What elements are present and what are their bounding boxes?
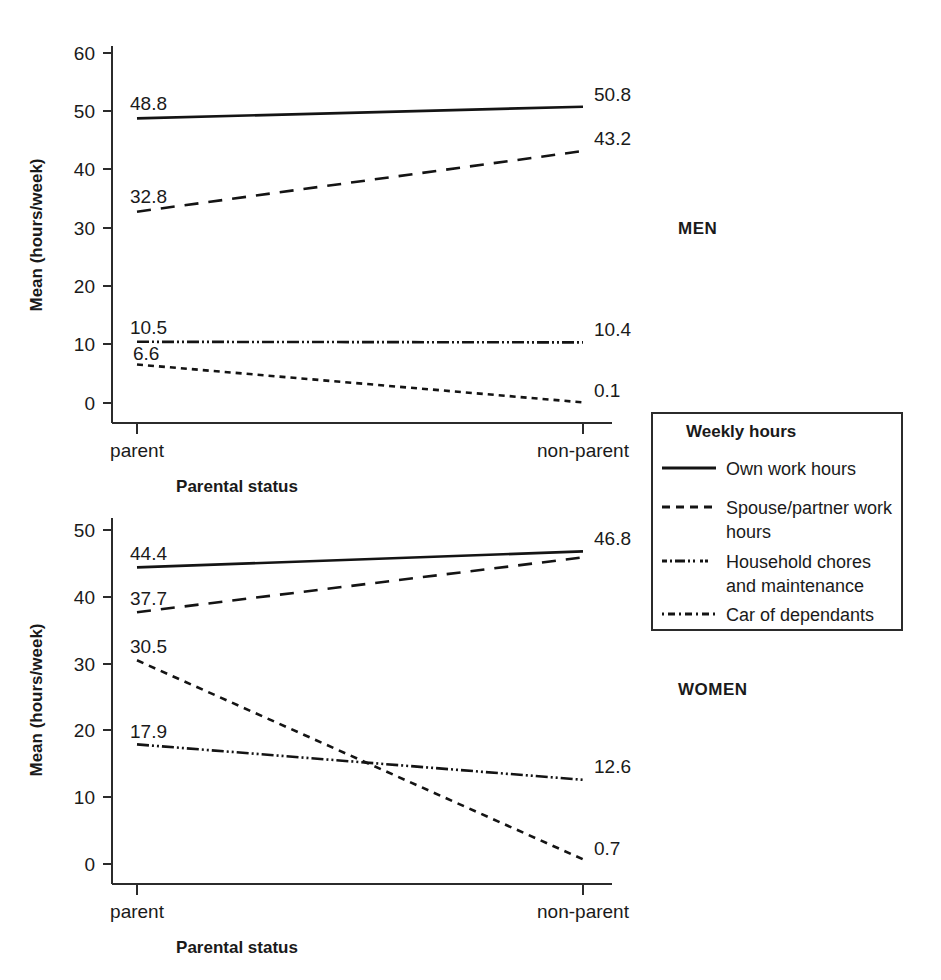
legend-label-own-work-hours: Own work hours — [726, 459, 856, 479]
men-series-spouse-work-hours — [137, 151, 583, 212]
legend-label-care-of-dependants: Car of dependants — [726, 605, 874, 625]
legend-item-household-chores[interactable]: Household chores and maintenance — [662, 552, 871, 596]
panel-label-women: WOMEN — [678, 680, 748, 699]
women-label-chores-left: 17.9 — [130, 721, 167, 742]
legend-label-spouse-work-hours: Spouse/partner work — [726, 498, 893, 518]
men-label-chores-right: 10.4 — [594, 319, 631, 340]
women-label-care-right: 0.7 — [594, 838, 620, 859]
legend-title: Weekly hours — [686, 422, 796, 441]
men-ytick-30: 30 — [74, 218, 95, 239]
women-label-spouse-left: 37.7 — [130, 588, 167, 609]
men-label-spouse-left: 32.8 — [130, 186, 167, 207]
women-label-own-right: 46.8 — [594, 528, 631, 549]
men-series-own-work-hours — [137, 107, 583, 119]
men-label-spouse-right: 43.2 — [594, 128, 631, 149]
men-ytick-0: 0 — [84, 393, 95, 414]
legend-label-household-chores-line2: and maintenance — [726, 576, 864, 596]
legend-label-household-chores: Household chores — [726, 552, 871, 572]
women-label-own-left: 44.4 — [130, 543, 167, 564]
men-x-axis-title: Parental status — [176, 477, 298, 496]
legend-border — [652, 413, 902, 630]
men-ytick-20: 20 — [74, 276, 95, 297]
men-label-care-left: 6.6 — [133, 343, 159, 364]
women-series-household-chores — [137, 744, 583, 779]
women-ytick-0: 0 — [84, 854, 95, 875]
men-xtick-non-parent: non-parent — [537, 440, 630, 461]
men-series-household-chores — [137, 342, 583, 343]
women-series-own-work-hours — [137, 551, 583, 567]
women-series-care-of-dependants — [137, 660, 583, 859]
men-xtick-parent: parent — [110, 440, 165, 461]
men-ytick-10: 10 — [74, 334, 95, 355]
women-label-care-left: 30.5 — [130, 636, 167, 657]
men-y-ticks — [103, 53, 112, 403]
women-ytick-40: 40 — [74, 587, 95, 608]
women-ytick-10: 10 — [74, 787, 95, 808]
women-x-ticks — [137, 884, 583, 895]
legend-item-care-of-dependants[interactable]: Car of dependants — [662, 605, 874, 625]
women-ytick-50: 50 — [74, 520, 95, 541]
men-x-ticks — [137, 423, 583, 434]
panel-label-men: MEN — [678, 219, 717, 238]
panel-men: 0 10 20 30 40 50 60 parent non-parent Pa… — [27, 43, 717, 496]
men-label-own-left: 48.8 — [130, 93, 167, 114]
men-series-care-of-dependants — [137, 365, 583, 403]
two-panel-line-chart: 0 10 20 30 40 50 60 parent non-parent Pa… — [0, 0, 941, 980]
men-ytick-60: 60 — [74, 43, 95, 64]
men-y-axis-title: Mean (hours/week) — [27, 158, 46, 311]
women-label-chores-right: 12.6 — [594, 756, 631, 777]
women-ytick-30: 30 — [74, 654, 95, 675]
women-ytick-20: 20 — [74, 720, 95, 741]
women-x-axis-title: Parental status — [176, 938, 298, 957]
women-xtick-non-parent: non-parent — [537, 901, 630, 922]
women-y-ticks — [103, 530, 112, 864]
women-y-axis-title: Mean (hours/week) — [27, 623, 46, 776]
panel-women: 0 10 20 30 40 50 parent non-parent Paren… — [27, 518, 748, 957]
legend-item-spouse-work-hours[interactable]: Spouse/partner work hours — [662, 498, 893, 542]
men-label-chores-left: 10.5 — [130, 317, 167, 338]
figure-root: 0 10 20 30 40 50 60 parent non-parent Pa… — [0, 0, 941, 980]
legend: Weekly hours Own work hours Spouse/partn… — [652, 413, 902, 630]
legend-item-own-work-hours[interactable]: Own work hours — [662, 459, 856, 479]
men-label-own-right: 50.8 — [594, 84, 631, 105]
men-label-care-right: 0.1 — [594, 380, 620, 401]
women-xtick-parent: parent — [110, 901, 165, 922]
legend-label-spouse-work-hours-line2: hours — [726, 522, 771, 542]
men-ytick-40: 40 — [74, 159, 95, 180]
men-ytick-50: 50 — [74, 101, 95, 122]
